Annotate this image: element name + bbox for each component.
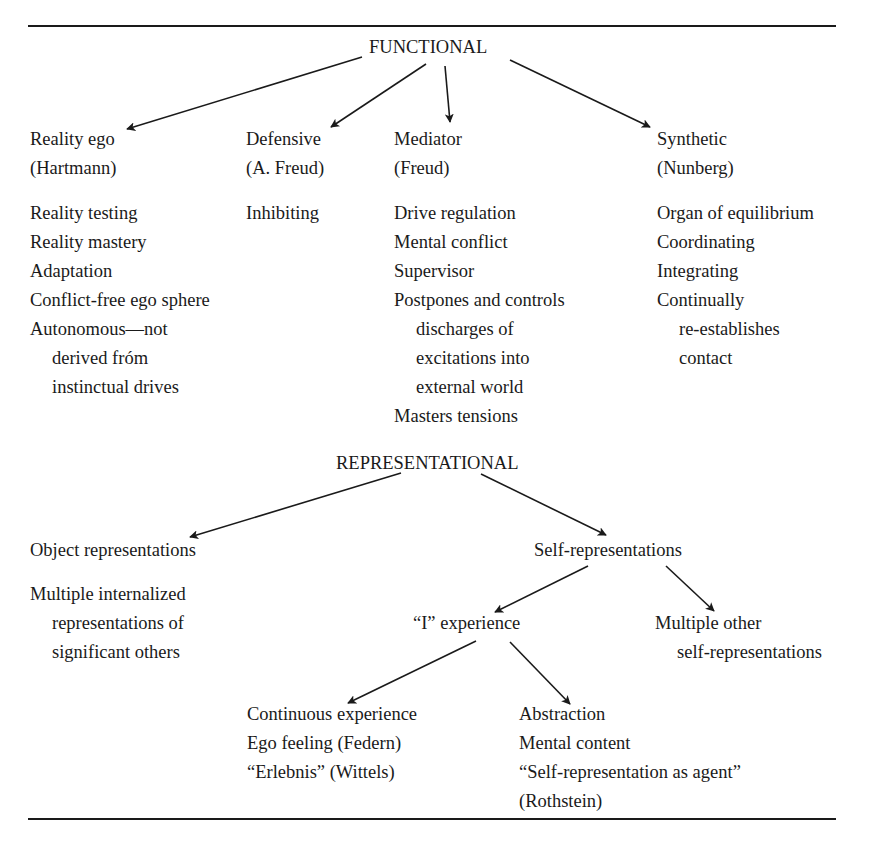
arrow-representational-to-self xyxy=(481,474,606,535)
list-item: derived fróm xyxy=(30,344,210,373)
list-item: discharges of xyxy=(394,315,565,344)
i-experience-title: “I” experience xyxy=(413,609,520,638)
list-item: Postpones and controls xyxy=(394,286,565,315)
self-representations-title: Self-representations xyxy=(534,536,682,565)
defensive-items: Inhibiting xyxy=(246,199,319,228)
list-item: “Self-representation as agent” xyxy=(519,758,741,787)
list-item: Reality mastery xyxy=(30,228,210,257)
continuous-experience-items: Continuous experience Ego feeling (Feder… xyxy=(247,700,417,787)
multiple-other-items: Multiple other self-representations xyxy=(655,609,822,667)
list-item: self-representations xyxy=(655,638,822,667)
mediator-title: Mediator xyxy=(394,125,462,154)
synthetic-author: (Nunberg) xyxy=(657,154,734,183)
arrow-self-to-i-experience xyxy=(495,566,588,612)
abstraction-items: Abstraction Mental content “Self-represe… xyxy=(519,700,741,816)
list-item: Continually xyxy=(657,286,814,315)
list-item: significant others xyxy=(30,638,186,667)
list-item: contact xyxy=(657,344,814,373)
list-item: Reality testing xyxy=(30,199,210,228)
list-item: Supervisor xyxy=(394,257,565,286)
object-representations-items: Multiple internalized representations of… xyxy=(30,580,186,667)
list-item: representations of xyxy=(30,609,186,638)
arrow-representational-to-object xyxy=(190,473,401,537)
mediator-items: Drive regulation Mental conflict Supervi… xyxy=(394,199,565,431)
arrow-functional-to-mediator xyxy=(445,66,450,122)
list-item: Multiple other xyxy=(655,609,822,638)
list-item: Masters tensions xyxy=(394,402,565,431)
mediator-author: (Freud) xyxy=(394,154,449,183)
reality-ego-items: Reality testing Reality mastery Adaptati… xyxy=(30,199,210,402)
list-item: Integrating xyxy=(657,257,814,286)
list-item: Coordinating xyxy=(657,228,814,257)
defensive-author: (A. Freud) xyxy=(246,154,324,183)
reality-ego-title: Reality ego xyxy=(30,125,115,154)
functional-heading: FUNCTIONAL xyxy=(369,33,487,62)
reality-ego-author: (Hartmann) xyxy=(30,154,116,183)
arrow-i-experience-to-continuous xyxy=(348,641,476,703)
list-item: Multiple internalized xyxy=(30,580,186,609)
list-item: Drive regulation xyxy=(394,199,565,228)
list-item: Mental conflict xyxy=(394,228,565,257)
representational-heading: REPRESENTATIONAL xyxy=(336,449,519,478)
list-item: excitations into xyxy=(394,344,565,373)
arrow-i-experience-to-abstraction xyxy=(510,642,570,704)
list-item: Mental content xyxy=(519,729,741,758)
list-item: Adaptation xyxy=(30,257,210,286)
list-item: Inhibiting xyxy=(246,199,319,228)
arrow-self-to-multiple-other xyxy=(666,566,714,611)
list-item: Organ of equilibrium xyxy=(657,199,814,228)
list-item: Continuous experience xyxy=(247,700,417,729)
list-item: (Rothstein) xyxy=(519,787,741,816)
list-item: Ego feeling (Federn) xyxy=(247,729,417,758)
arrow-functional-to-defensive xyxy=(331,64,426,127)
arrow-functional-to-reality-ego xyxy=(127,57,362,129)
defensive-title: Defensive xyxy=(246,125,321,154)
list-item: re-establishes xyxy=(657,315,814,344)
synthetic-items: Organ of equilibrium Coordinating Integr… xyxy=(657,199,814,373)
list-item: instinctual drives xyxy=(30,373,210,402)
list-item: external world xyxy=(394,373,565,402)
list-item: Abstraction xyxy=(519,700,741,729)
object-representations-title: Object representations xyxy=(30,536,196,565)
list-item: Autonomous—not xyxy=(30,315,210,344)
list-item: “Erlebnis” (Wittels) xyxy=(247,758,417,787)
synthetic-title: Synthetic xyxy=(657,125,727,154)
arrow-functional-to-synthetic xyxy=(510,60,650,127)
list-item: Conflict-free ego sphere xyxy=(30,286,210,315)
